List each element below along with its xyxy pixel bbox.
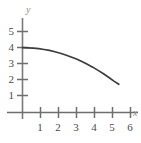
x-tick-label-3: 3 — [70, 122, 82, 133]
y-tick-label-5: 5 — [2, 26, 14, 37]
y-axis-label: y — [26, 5, 30, 15]
x-tick-label-2: 2 — [52, 122, 64, 133]
x-tick-label-5: 5 — [106, 122, 118, 133]
y-tick-label-2: 2 — [2, 74, 14, 85]
x-tick-label-6: 6 — [124, 122, 136, 133]
y-tick-label-4: 4 — [2, 42, 14, 53]
y-tick-label-3: 3 — [2, 58, 14, 69]
y-tick-label-1: 1 — [2, 90, 14, 101]
x-tick-label-1: 1 — [34, 122, 46, 133]
x-tick-label-4: 4 — [88, 122, 100, 133]
figure-canvas: 5 4 3 2 1 1 2 3 4 5 6 y x — [0, 0, 141, 143]
x-axis-label: x — [133, 108, 137, 118]
data-curve — [23, 48, 119, 85]
